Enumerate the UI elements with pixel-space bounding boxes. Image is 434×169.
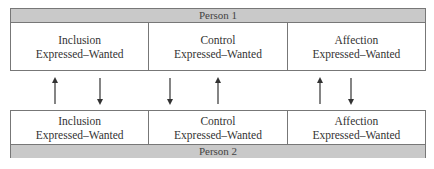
person-1-affection-cell: Affection Expressed–Wanted [287,23,425,71]
need-label: Affection [334,33,378,47]
arrow-down-icon [165,77,175,105]
arrow-down-icon [95,77,105,105]
arrow-down-icon [346,77,356,105]
need-sublabel: Expressed–Wanted [174,128,262,142]
need-sublabel: Expressed–Wanted [174,47,262,61]
need-label: Affection [334,114,378,128]
person-2-label: Person 2 [11,144,425,158]
need-sublabel: Expressed–Wanted [312,128,400,142]
person-2-box: Inclusion Expressed–Wanted Control Expre… [10,110,426,158]
person-1-box: Person 1 Inclusion Expressed–Wanted Cont… [10,8,426,71]
arrow-up-icon [50,77,60,105]
person-2-affection-cell: Affection Expressed–Wanted [287,111,425,144]
person-1-inclusion-cell: Inclusion Expressed–Wanted [11,23,148,71]
arrow-up-icon [315,77,325,105]
need-label: Control [200,114,235,128]
need-label: Control [200,33,235,47]
need-label: Inclusion [58,33,101,47]
need-sublabel: Expressed–Wanted [36,128,124,142]
person-2-control-cell: Control Expressed–Wanted [148,111,286,144]
need-sublabel: Expressed–Wanted [36,47,124,61]
person-2-inclusion-cell: Inclusion Expressed–Wanted [11,111,148,144]
person-1-label: Person 1 [11,9,425,23]
need-sublabel: Expressed–Wanted [312,47,400,61]
exchange-arrows [10,73,426,109]
need-label: Inclusion [58,114,101,128]
arrow-up-icon [213,77,223,105]
person-1-control-cell: Control Expressed–Wanted [148,23,286,71]
